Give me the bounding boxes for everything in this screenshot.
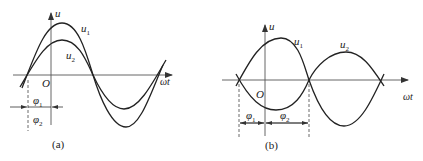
label-u1: u1 [294, 35, 304, 50]
caption-a: (a) [52, 138, 65, 151]
label-u1: u1 [81, 22, 91, 37]
label-u2: u2 [66, 49, 76, 64]
figure-a: u u1 u2 O ωt φ1 φ2 (a) [10, 7, 172, 151]
label-phi1: φ1 [246, 109, 256, 124]
figure-b: u u1 u2 O ωt φ1 φ2 (b) [222, 20, 413, 152]
origin-label: O [42, 77, 50, 89]
y-axis-label: u [55, 7, 61, 19]
origin-label: O [256, 88, 264, 100]
label-phi2: φ2 [280, 109, 290, 124]
curve-u2 [20, 40, 166, 109]
label-phi2: φ2 [33, 113, 43, 128]
x-axis-label: ωt [403, 91, 413, 102]
x-axis-label: ωt [160, 76, 170, 87]
label-u2: u2 [340, 38, 350, 53]
caption-b: (b) [265, 139, 278, 152]
y-axis-label: u [269, 20, 275, 32]
curve-u1 [236, 38, 384, 126]
phase-diagram: u u1 u2 O ωt φ1 φ2 (a) u u1 u2 O ωt φ1 φ… [0, 0, 423, 161]
